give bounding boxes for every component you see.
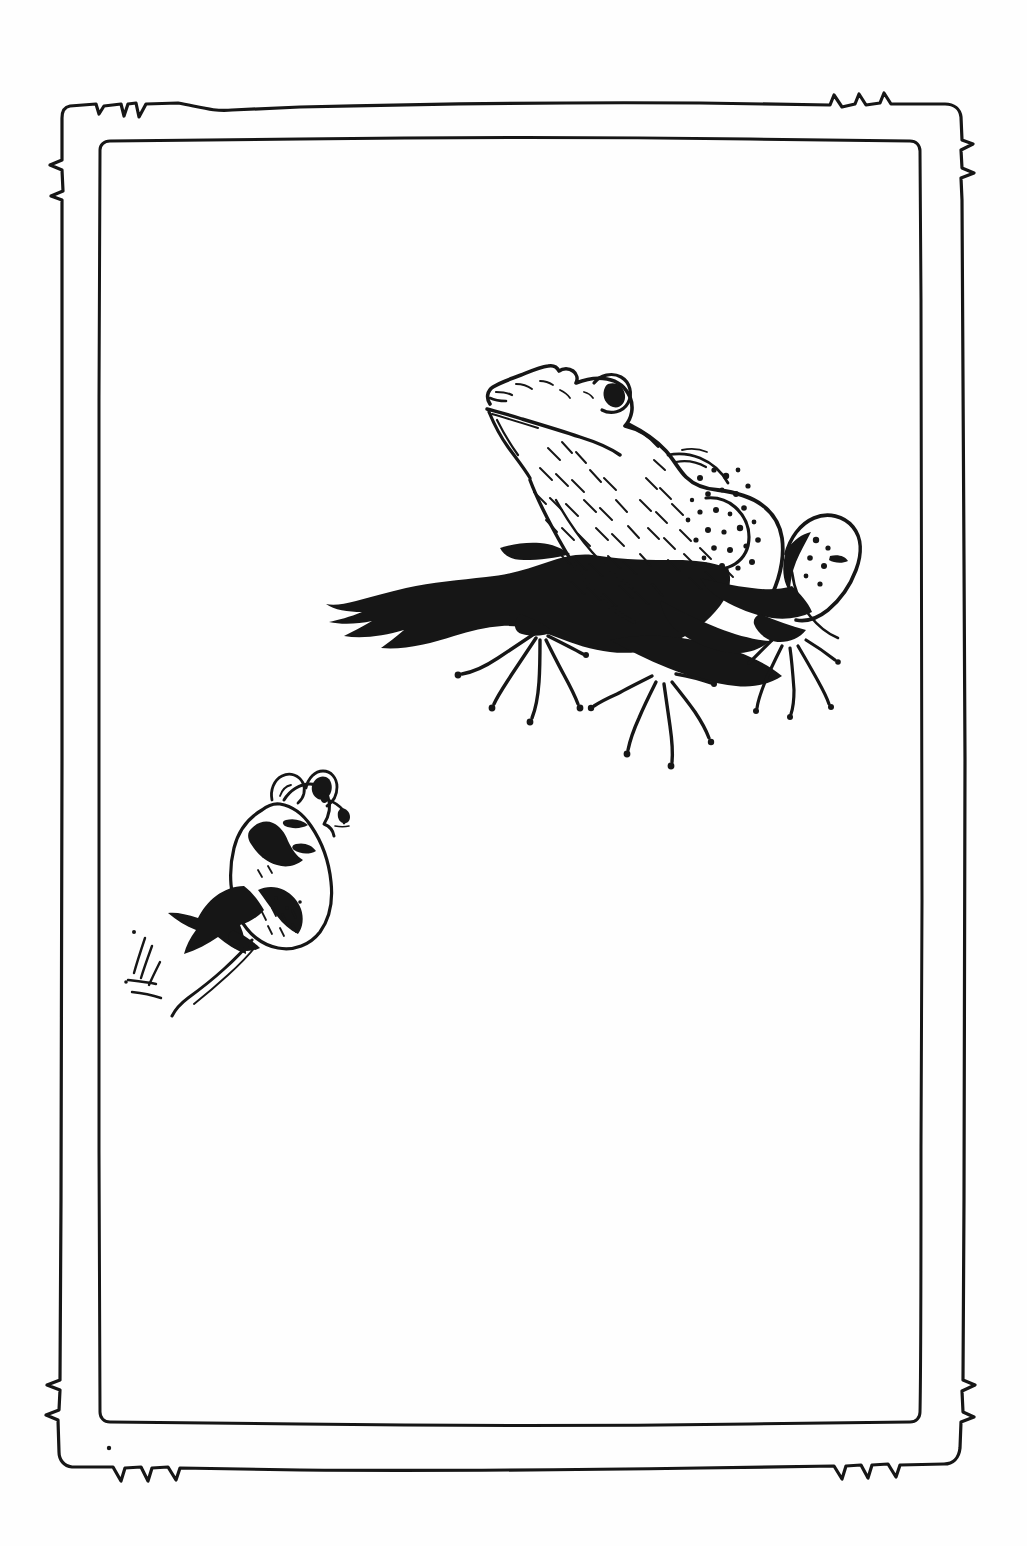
illustration-canvas bbox=[0, 0, 1027, 1546]
frame-ink-speck bbox=[107, 1446, 111, 1450]
paper-background bbox=[0, 0, 1027, 1546]
illustration-plate: The Frog and the Mouse Frog Mouse Cast s… bbox=[0, 0, 1027, 1546]
